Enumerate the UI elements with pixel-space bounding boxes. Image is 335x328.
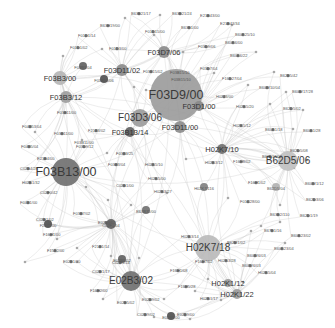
graph-dot [284,242,287,245]
node-label-small: C02B9/02 [137,312,156,317]
graph-dot [285,91,288,94]
node-label: F03B3/00 [44,74,77,83]
node-label-small: B63B21/24 [172,11,193,16]
node-label-small: H02J3/00 [216,94,234,99]
node-label-small: H02K5/12 [233,123,252,128]
node-label: F03B13/14 [112,128,149,137]
graph-dot [189,318,192,321]
edge [204,149,222,187]
node-label-small: F03B7/02 [73,211,91,216]
graph-dot [260,225,263,228]
node-label-small: F03D7/04 [200,66,218,71]
graph-dot [182,51,185,54]
node-label-small: B60W10/04 [259,85,281,90]
node-label-small: B60W6/03 [242,263,261,268]
node-label: F03B3/04 [74,65,92,70]
node-label-small: B67B1/16 [264,228,282,233]
graph-dot [302,109,305,112]
graph-dot [76,247,79,250]
node-label: F03D11/02 [104,66,141,75]
node-label-small: H02K5/00 [148,176,167,181]
node-label-small: F03B3/04 [108,162,126,167]
node-label-small: E21B43/00 [200,13,221,18]
edge [122,33,145,70]
node-label-small: E02B9/02 [142,297,160,302]
node-label-small: B60K1/18 [265,127,283,132]
node-label: F03D1/00 [183,102,216,111]
node-label-small: H02K3/28 [218,258,237,263]
node-label: F03D9/00 [149,88,204,102]
graph-dot [102,298,105,301]
node-label-small: F03B3/25 [116,151,134,156]
node-label-small: B60W1/12 [305,181,324,186]
node-label-small: F16D27/04 [222,76,243,81]
node-label: F03B13/06 [94,78,114,83]
node-label-small: B63H19/00 [100,23,121,28]
graph-dot [163,298,166,301]
node-label-small: F21B3/02 [88,128,106,133]
node-label-small: F21B1/14 [92,244,110,249]
graph-dot [101,48,104,51]
graph-dot [194,290,197,293]
node-label: H02K7/18 [186,242,231,253]
node-label: E02B9/02 [113,258,131,263]
node-label-small: B63B21/17 [131,11,152,16]
node-label-small: H02K1/17 [200,296,219,301]
node-label-small: F16H2/00 [90,288,108,293]
node-label: H02K7/116 [194,186,214,191]
node-label-small: B63B2/110 [270,212,290,217]
node-label-small: E21B4/00 [37,156,55,161]
node-label: B62D5/06 [266,155,311,166]
node-label-small: H02K5/10 [145,162,164,167]
graph-dot [110,255,113,258]
graph-dot [62,55,65,58]
node-label: F03B11/00 [74,140,94,145]
graph-dot [279,204,282,207]
node-label-small: B60W17/28 [292,89,314,94]
edge [77,224,111,262]
node-label-small: F03D9/06 [198,44,216,49]
graph-dot [279,221,282,224]
graph-dot [153,34,156,37]
graph-dot [292,128,295,131]
node-label-small: B62D1/19 [300,213,319,218]
edge [60,78,130,132]
node-label-small: C02B1/02 [36,217,55,222]
graph-dot [85,186,88,189]
node-label-small: F03B11/00 [57,110,77,115]
node-label-small: B60K23/04 [274,246,295,251]
node-label-small: C02F0/42 [40,190,58,195]
node-label-small: F16H7/02 [195,259,213,264]
graph-dot [255,51,258,54]
node-label: F24J2/00 [40,223,57,228]
node-label-small: H02K5/20 [236,104,255,109]
node-label-small: B60K25/10 [235,32,256,37]
node-label-small: B63B1/00 [181,25,199,30]
graph-dot [145,89,148,92]
graph-dot [107,199,110,202]
graph-dot [227,197,230,200]
edge [217,149,237,294]
node-label-small: F16H1/00 [43,232,61,237]
edge [66,70,122,172]
node-label-small: E02B5/02 [117,300,135,305]
graph-dot [138,257,141,260]
node-label-small: H02K3/14 [181,234,200,239]
node-label: F03D11/00 [162,123,199,132]
edge [21,97,66,148]
node-label-small: F16H8/02 [233,159,251,164]
node-label-small: F01D15/00 [145,29,166,34]
node-label: H02K1/12 [211,279,244,288]
graph-dot [220,299,223,302]
edge [199,106,222,149]
node-label-small: B62B5/42 [280,73,298,78]
node-label: F03B15/10 [171,77,191,82]
node-label: E02B3/02 [109,275,153,286]
graph-dot [273,71,276,74]
node-label-small: B62D5/08 [290,148,309,153]
graph-dot [56,238,59,241]
node-label: C02F1/04 [102,223,120,228]
node-label-small: B60K6/22 [230,53,248,58]
node-label-small: F01D3/00 [109,46,127,51]
graph-dot [34,131,37,134]
